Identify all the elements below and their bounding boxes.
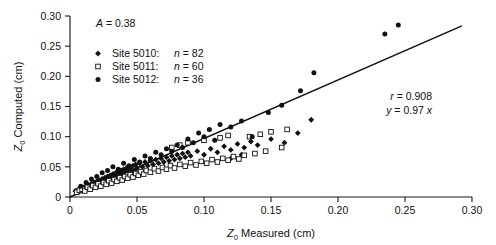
data-point-series-1 xyxy=(178,162,183,167)
y-tick-label: 0.20 xyxy=(41,70,62,82)
x-tick-label: 0 xyxy=(67,204,73,216)
data-point-series-0 xyxy=(208,146,214,152)
data-point-series-2 xyxy=(100,170,105,175)
data-point-series-2 xyxy=(202,134,207,139)
data-point-series-0 xyxy=(255,142,261,148)
data-point-series-1 xyxy=(226,158,231,163)
data-point-series-0 xyxy=(295,130,301,136)
legend-label-0: Site 5010: xyxy=(112,47,159,59)
annotation-correlation: r = 0.908 xyxy=(390,90,432,102)
data-point-series-1 xyxy=(242,153,247,158)
data-point-series-2 xyxy=(143,153,148,158)
data-point-series-2 xyxy=(132,157,137,162)
data-point-series-1 xyxy=(218,136,223,141)
data-point-series-1 xyxy=(183,164,188,169)
data-point-series-1 xyxy=(237,157,242,162)
data-point-series-2 xyxy=(279,103,284,108)
data-point-series-2 xyxy=(180,145,185,150)
data-point-series-2 xyxy=(196,131,201,136)
data-point-series-2 xyxy=(164,146,169,151)
data-point-series-2 xyxy=(110,164,115,169)
data-point-series-2 xyxy=(250,134,255,139)
data-point-series-2 xyxy=(159,152,164,157)
data-point-series-1 xyxy=(194,163,199,168)
data-point-series-0 xyxy=(282,140,288,146)
data-point-series-2 xyxy=(153,150,158,155)
data-point-series-2 xyxy=(396,23,401,28)
data-point-series-1 xyxy=(199,159,204,164)
data-point-series-2 xyxy=(148,156,153,161)
y-tick-label: 0.15 xyxy=(41,100,62,112)
data-point-series-2 xyxy=(228,125,233,130)
data-point-series-2 xyxy=(78,184,83,189)
data-point-series-2 xyxy=(207,127,212,132)
plot-canvas: 00.050.100.150.200.250.3000.050.100.150.… xyxy=(0,0,496,245)
data-point-series-1 xyxy=(204,161,209,166)
scatter-plot-figure: 00.050.100.150.200.250.3000.050.100.150.… xyxy=(0,0,496,245)
y-tick-label: 0 xyxy=(55,191,61,203)
x-tick-label: 0.15 xyxy=(261,204,282,216)
data-point-series-0 xyxy=(194,148,200,154)
data-point-series-2 xyxy=(191,140,196,145)
data-point-series-2 xyxy=(137,160,142,165)
data-point-series-2 xyxy=(311,70,316,75)
legend-marker-2 xyxy=(96,77,101,82)
data-point-series-1 xyxy=(210,157,215,162)
legend-count-0: n = 82 xyxy=(174,47,204,59)
y-tick-label: 0.10 xyxy=(41,130,62,142)
data-point-series-2 xyxy=(84,180,89,185)
data-point-series-2 xyxy=(266,110,271,115)
data-point-series-1 xyxy=(285,127,290,132)
svg-text:Z0 Computed (cm): Z0 Computed (cm) xyxy=(12,62,27,153)
x-tick-label: 0.20 xyxy=(328,204,349,216)
legend-count-1: n = 60 xyxy=(174,60,204,72)
data-point-series-2 xyxy=(105,168,110,173)
data-point-series-2 xyxy=(239,118,244,123)
data-point-series-2 xyxy=(185,137,190,142)
data-point-series-1 xyxy=(269,130,274,135)
legend-count-2: n = 36 xyxy=(174,73,204,85)
data-point-series-1 xyxy=(220,156,225,161)
data-point-series-0 xyxy=(201,152,207,158)
legend-marker-1 xyxy=(96,64,101,69)
y-tick-label: 0.30 xyxy=(41,10,62,22)
data-point-series-2 xyxy=(218,122,223,127)
legend-marker-0 xyxy=(95,51,101,57)
data-point-series-0 xyxy=(215,149,221,155)
data-point-series-1 xyxy=(253,151,258,156)
data-point-series-1 xyxy=(258,132,263,137)
data-point-series-1 xyxy=(263,149,268,154)
data-point-series-0 xyxy=(228,147,234,153)
data-point-series-0 xyxy=(235,141,241,147)
y-tick-label: 0.05 xyxy=(41,161,62,173)
data-point-series-0 xyxy=(221,143,227,149)
x-axis-title: Z0 Measured (cm) xyxy=(226,227,315,242)
data-point-series-0 xyxy=(308,117,314,123)
data-point-series-1 xyxy=(226,133,231,138)
data-point-series-1 xyxy=(172,166,177,171)
data-point-series-2 xyxy=(94,174,99,179)
data-point-series-0 xyxy=(248,139,254,145)
data-point-series-2 xyxy=(116,167,121,172)
data-point-series-2 xyxy=(382,32,387,37)
x-tick-label: 0.05 xyxy=(127,204,148,216)
data-point-series-2 xyxy=(212,138,217,143)
data-point-series-1 xyxy=(215,160,220,165)
legend-label-2: Site 5012: xyxy=(112,73,159,85)
legend-label-1: Site 5011: xyxy=(112,60,159,72)
data-point-series-1 xyxy=(279,145,284,150)
data-point-series-2 xyxy=(175,143,180,148)
data-point-series-2 xyxy=(89,176,94,181)
data-point-series-2 xyxy=(126,163,131,168)
data-point-series-1 xyxy=(188,160,193,165)
data-point-series-0 xyxy=(268,136,274,142)
data-point-series-2 xyxy=(298,88,303,93)
annotation-fit-equation: y = 0.97 x xyxy=(385,104,433,116)
data-point-series-2 xyxy=(121,161,126,166)
data-point-series-0 xyxy=(241,145,247,151)
data-point-series-1 xyxy=(231,154,236,159)
x-tick-label: 0.30 xyxy=(462,204,483,216)
annotation-amplitude: A = 0.38 xyxy=(95,17,136,29)
x-tick-label: 0.10 xyxy=(194,204,215,216)
y-axis-title: Z0 Computed (cm) xyxy=(12,62,27,153)
